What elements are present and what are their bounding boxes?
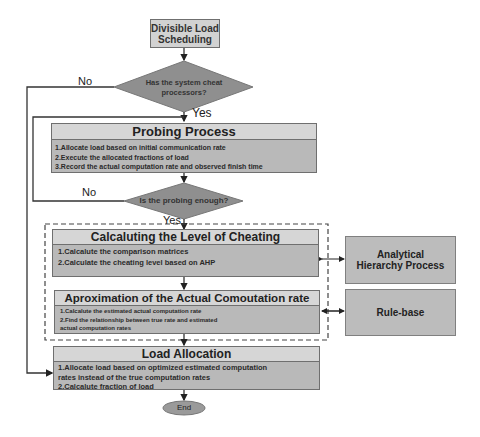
- cheating-item-2: 2.Calculate the cheating level based on …: [58, 257, 313, 268]
- allocation-item-1: 1.Allocate load based on optimized estim…: [58, 363, 315, 373]
- decision-probing-yes-label: Yes: [163, 214, 181, 226]
- flowchart: Divisible Load Scheduling Has the system…: [0, 0, 480, 437]
- load-allocation-title: Load Allocation: [54, 347, 319, 362]
- start-line2: Scheduling: [158, 34, 212, 45]
- decision-cheat-line2: processors?: [130, 88, 238, 98]
- probing-process-box: Probing Process 1.Allocate load based on…: [51, 123, 317, 173]
- allocation-item-2: rates instead of the true computation ra…: [58, 373, 315, 383]
- decision-probing-no-label: No: [82, 186, 96, 198]
- ahp-box: Analytical Hierarchy Process: [345, 236, 456, 284]
- decision-cheat-yes-label: Yes: [192, 106, 212, 120]
- rule-base-label: Rule-base: [377, 307, 425, 318]
- decision-cheat-text: Has the system cheat processors?: [130, 78, 238, 98]
- ahp-line1: Analytical: [377, 249, 424, 260]
- cheating-level-box: Calcaluting the Level of Cheating 1.Calc…: [52, 229, 319, 277]
- start-line1: Divisible Load: [151, 23, 219, 34]
- ahp-line2: Hierarchy Process: [357, 260, 445, 271]
- probing-item-2: 2.Execute the allocated fractions of loa…: [55, 153, 313, 163]
- approximation-title: Aproximation of the Actual Comoutation r…: [55, 291, 319, 306]
- probing-item-3: 3.Record the actual computation rate and…: [55, 162, 313, 172]
- probing-process-title: Probing Process: [52, 124, 316, 140]
- allocation-item-3: 2.Calcalute fraction of load: [58, 382, 315, 392]
- rule-base-box: Rule-base: [345, 289, 456, 336]
- load-allocation-box: Load Allocation 1.Allocate load based on…: [53, 346, 320, 390]
- approximation-box: Aproximation of the Actual Comoutation r…: [54, 290, 320, 334]
- approximation-item-2: 2.Find the relationship between true rat…: [60, 316, 314, 325]
- decision-cheat-line1: Has the system cheat: [130, 78, 238, 88]
- cheating-item-1: 1.Calcalute the comparison matrices: [58, 246, 313, 257]
- probing-item-1: 1.Allocate load based on initial communi…: [55, 143, 313, 153]
- decision-probing-text: Is the probing enough?: [128, 196, 240, 205]
- approximation-item-3: actual computation rates: [60, 324, 314, 333]
- decision-cheat-no-label: No: [78, 75, 92, 87]
- end-label: End: [163, 403, 205, 412]
- start-box: Divisible Load Scheduling: [150, 19, 220, 48]
- cheating-level-title: Calcaluting the Level of Cheating: [53, 230, 318, 245]
- approximation-item-1: 1.Calcalute the estimated actual computa…: [60, 307, 314, 316]
